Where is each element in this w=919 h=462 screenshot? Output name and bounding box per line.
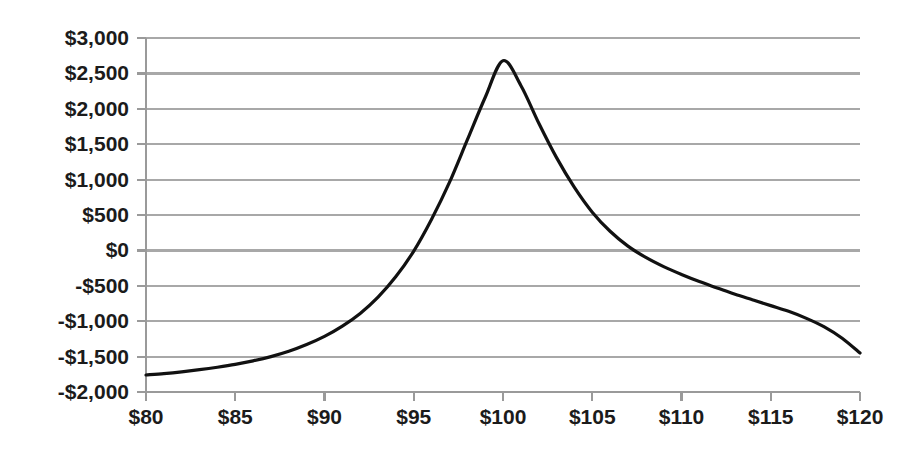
y-axis-label-10: -$2,000: [58, 380, 129, 403]
x-axis-label-5: $105: [569, 405, 616, 428]
chart-container: $3,000$2,500$2,000$1,500$1,000$500$0-$50…: [0, 0, 919, 462]
y-axis-label-0: $3,000: [65, 26, 129, 49]
y-axis-label-4: $1,000: [65, 168, 129, 191]
x-axis-label-2: $90: [307, 405, 342, 428]
y-axis-label-2: $2,000: [65, 97, 129, 120]
x-axis-tick-labels: $80$85$90$95$100$105$110$115$120: [128, 405, 883, 428]
x-axis-label-1: $85: [218, 405, 253, 428]
x-axis-label-3: $95: [396, 405, 431, 428]
y-axis-label-3: $1,500: [65, 132, 129, 155]
y-axis-label-6: $0: [106, 238, 129, 261]
y-axis-label-8: -$1,000: [58, 309, 129, 332]
x-axis-label-8: $120: [837, 405, 884, 428]
y-axis-label-9: -$1,500: [58, 345, 129, 368]
profit-curve-chart: $3,000$2,500$2,000$1,500$1,000$500$0-$50…: [0, 0, 919, 462]
x-axis-label-0: $80: [128, 405, 163, 428]
y-axis-label-7: -$500: [75, 274, 129, 297]
x-axis-label-4: $100: [480, 405, 527, 428]
y-axis-label-1: $2,500: [65, 61, 129, 84]
x-axis-label-6: $110: [659, 405, 705, 428]
x-axis-label-7: $115: [748, 405, 794, 428]
y-axis-label-5: $500: [82, 203, 129, 226]
